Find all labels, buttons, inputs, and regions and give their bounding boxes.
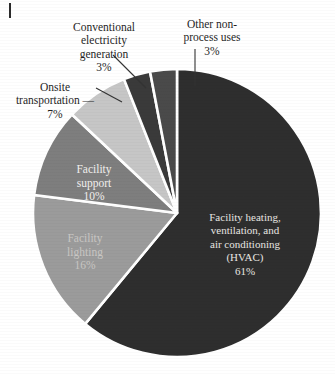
slice-label-facility-support: Facility support 10% bbox=[58, 150, 130, 217]
slice-label-onsite-text: Onsite transportation — bbox=[16, 81, 94, 106]
slice-label-hvac-text: Facility heating, ventilation, and air c… bbox=[209, 211, 280, 264]
slice-label-hvac: Facility heating, ventilation, and air c… bbox=[186, 197, 304, 292]
slice-label-other-percent: 3% bbox=[163, 45, 261, 58]
slice-label-conventional-text: Conventional electricity generation bbox=[73, 21, 135, 59]
slice-label-facility-support-text: Facility support bbox=[76, 163, 111, 188]
slice-label-facility-lighting-percent: 16% bbox=[48, 259, 122, 272]
slice-label-onsite-percent: 7% bbox=[2, 108, 108, 121]
slice-label-other-text: Other non- process uses bbox=[183, 18, 240, 43]
slice-label-onsite-transportation: Onsite transportation — 7% bbox=[2, 68, 108, 134]
slice-label-facility-lighting-text: Facility lighting bbox=[67, 232, 103, 257]
slice-label-other-non-process-uses: Other non- process uses 3% bbox=[163, 5, 261, 71]
slice-label-facility-support-percent: 10% bbox=[58, 190, 130, 203]
pie-chart-figure: Conventional electricity generation 3% O… bbox=[0, 0, 335, 374]
slice-label-facility-lighting: Facility lighting 16% bbox=[48, 219, 122, 286]
slice-label-hvac-percent: 61% bbox=[186, 265, 304, 279]
